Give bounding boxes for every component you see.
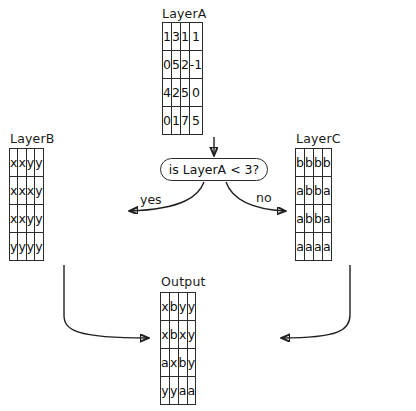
cell: a — [296, 233, 305, 261]
cell: 2 — [180, 51, 189, 79]
cell: x — [178, 321, 187, 349]
cell: y — [169, 377, 178, 405]
table-row: x b y y — [161, 293, 196, 321]
cell: x — [10, 149, 18, 177]
cell: y — [35, 177, 43, 205]
cell: x — [10, 205, 18, 233]
cell: y — [161, 377, 170, 405]
cell: y — [187, 321, 196, 349]
cell: b — [169, 293, 178, 321]
table-row: 1 3 1 1 — [163, 23, 203, 51]
cell: 1 — [180, 23, 189, 51]
cell: b — [304, 149, 313, 177]
cell: b — [169, 321, 178, 349]
cell: 0 — [189, 79, 202, 107]
cell: 5 — [180, 79, 189, 107]
decision-node: is LayerA < 3? — [160, 158, 268, 181]
cell: y — [35, 149, 43, 177]
cell: b — [322, 149, 331, 177]
cell: x — [18, 177, 26, 205]
table-row: a x b y — [161, 349, 196, 377]
table-row: a b b a — [296, 205, 332, 233]
cell: b — [178, 349, 187, 377]
table-row: y y y y — [10, 233, 44, 261]
cell: a — [178, 377, 187, 405]
cell: 1 — [189, 23, 202, 51]
arrow-layerb-to-output — [64, 265, 148, 338]
cell: y — [18, 233, 26, 261]
cell: a — [313, 233, 322, 261]
cell: x — [10, 177, 18, 205]
table-row: 4 2 5 0 — [163, 79, 203, 107]
cell: b — [296, 149, 305, 177]
layer-b-matrix: x x y y x x x y x x y y y — [9, 148, 44, 261]
table-row: a b b a — [296, 177, 332, 205]
cell: 1 — [171, 107, 180, 135]
cell: y — [187, 349, 196, 377]
output-label: Output — [161, 274, 206, 289]
connector-arrows-layer — [0, 0, 416, 411]
cell: b — [304, 205, 313, 233]
cell: 5 — [189, 107, 202, 135]
cell: x — [18, 149, 26, 177]
layer-b-label: LayerB — [10, 131, 55, 146]
cell: x — [18, 205, 26, 233]
table-row: x x y y — [10, 149, 44, 177]
cell: y — [178, 293, 187, 321]
table-row: x b x y — [161, 321, 196, 349]
cell: y — [187, 293, 196, 321]
decision-text: is LayerA < 3? — [169, 162, 259, 177]
cell: b — [304, 177, 313, 205]
cell: y — [26, 149, 34, 177]
cell: b — [313, 205, 322, 233]
cell: 7 — [180, 107, 189, 135]
table-row: b b b b — [296, 149, 332, 177]
cell: a — [187, 377, 196, 405]
table-row: 0 5 2 -1 — [163, 51, 203, 79]
cell: a — [322, 233, 331, 261]
cell: x — [161, 321, 170, 349]
cell: 0 — [163, 51, 172, 79]
cell: y — [26, 205, 34, 233]
cell: a — [322, 205, 331, 233]
flow-diagram-canvas: LayerA 1 3 1 1 0 5 2 -1 4 2 5 — [0, 0, 416, 411]
cell: y — [10, 233, 18, 261]
table-row: y y a a — [161, 377, 196, 405]
cell: b — [313, 177, 322, 205]
layer-a-label: LayerA — [162, 6, 207, 21]
layer-c-label: LayerC — [296, 131, 341, 146]
cell: x — [169, 349, 178, 377]
cell: x — [26, 177, 34, 205]
table-row: x x y y — [10, 205, 44, 233]
cell: y — [35, 205, 43, 233]
cell: x — [161, 293, 170, 321]
layer-c-matrix: b b b b a b b a a b b a a — [295, 148, 332, 261]
cell: y — [35, 233, 43, 261]
cell: 0 — [163, 107, 172, 135]
cell: -1 — [189, 51, 202, 79]
cell: a — [304, 233, 313, 261]
layer-a-matrix: 1 3 1 1 0 5 2 -1 4 2 5 0 0 — [162, 22, 203, 135]
table-row: x x x y — [10, 177, 44, 205]
edge-label-no: no — [256, 190, 272, 205]
cell: y — [26, 233, 34, 261]
cell: a — [322, 177, 331, 205]
table-row: a a a a — [296, 233, 332, 261]
cell: 4 — [163, 79, 172, 107]
cell: b — [313, 149, 322, 177]
arrow-layerc-to-output — [282, 265, 350, 338]
edge-label-yes: yes — [140, 192, 162, 207]
cell: a — [161, 349, 170, 377]
output-matrix: x b y y x b x y a x b y y — [160, 292, 196, 405]
cell: 3 — [171, 23, 180, 51]
cell: 5 — [171, 51, 180, 79]
cell: 1 — [163, 23, 172, 51]
cell: a — [296, 205, 305, 233]
cell: 2 — [171, 79, 180, 107]
cell: a — [296, 177, 305, 205]
table-row: 0 1 7 5 — [163, 107, 203, 135]
